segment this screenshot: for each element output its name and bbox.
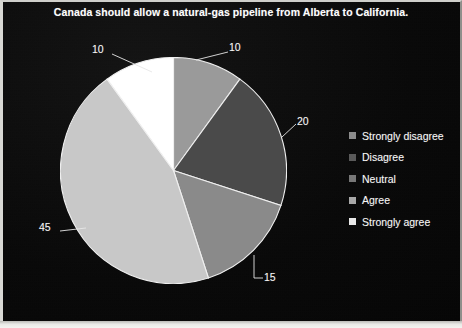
legend-item-label: Agree [362, 194, 390, 206]
legend-item-label: Neutral [362, 173, 396, 185]
data-label-neutral: 15 [264, 271, 276, 283]
chart-legend: Strongly disagree Disagree Neutral Agree… [349, 126, 444, 234]
figure-bottom-edge [0, 321, 462, 328]
legend-swatch-icon [349, 175, 356, 182]
legend-item-label: Strongly agree [362, 216, 430, 228]
legend-swatch-icon [349, 132, 356, 139]
pie-chart [60, 57, 287, 284]
legend-item-label: Strongly disagree [362, 130, 444, 142]
legend-item-strongly-disagree[interactable]: Strongly disagree [349, 126, 444, 145]
pie-svg [60, 57, 287, 284]
legend-item-neutral[interactable]: Neutral [349, 169, 444, 188]
data-label-strongly-disagree: 10 [229, 41, 241, 53]
data-label-agree: 45 [39, 221, 51, 233]
legend-swatch-icon [349, 218, 356, 225]
legend-item-label: Disagree [362, 151, 404, 163]
data-label-disagree: 20 [297, 115, 309, 127]
legend-swatch-icon [349, 197, 356, 204]
data-label-strongly-agree: 10 [92, 43, 104, 55]
legend-item-agree[interactable]: Agree [349, 191, 444, 210]
chart-title: Canada should allow a natural-gas pipeli… [0, 6, 462, 18]
legend-item-disagree[interactable]: Disagree [349, 148, 444, 167]
legend-swatch-icon [349, 154, 356, 161]
chart-figure: Canada should allow a natural-gas pipeli… [0, 0, 462, 328]
legend-item-strongly-agree[interactable]: Strongly agree [349, 212, 444, 231]
